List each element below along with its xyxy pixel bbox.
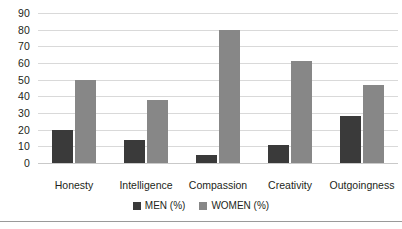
legend-item-women[interactable]: WOMEN (%) — [199, 201, 269, 211]
bar-group — [196, 0, 240, 176]
chart-legend: MEN (%)WOMEN (%) — [0, 198, 402, 214]
y-tick-label: 80 — [18, 25, 30, 35]
x-tick-label: Creativity — [268, 179, 312, 191]
x-tick-label: Honesty — [55, 179, 94, 191]
bar-men — [52, 130, 73, 163]
y-tick-label: 0 — [24, 158, 30, 168]
y-tick-label: 20 — [18, 125, 30, 135]
x-tick-label: Compassion — [189, 179, 247, 191]
legend-label: WOMEN (%) — [211, 201, 269, 211]
bar-women — [363, 85, 384, 163]
y-tick-label: 10 — [18, 141, 30, 151]
y-tick-label: 30 — [18, 108, 30, 118]
bottom-divider — [0, 221, 402, 222]
x-tick-label: Outgoingness — [330, 179, 395, 191]
x-axis-labels: HonestyIntelligenceCompassionCreativityO… — [38, 176, 398, 196]
y-tick-label: 60 — [18, 58, 30, 68]
y-axis: 0102030405060708090 — [0, 0, 36, 176]
x-tick-label: Intelligence — [119, 179, 172, 191]
y-tick-label: 50 — [18, 75, 30, 85]
bar-men — [196, 155, 217, 163]
y-tick-label: 40 — [18, 91, 30, 101]
plot-wrapper: 0102030405060708090 — [0, 0, 402, 176]
y-tick-label: 90 — [18, 8, 30, 18]
legend-item-men[interactable]: MEN (%) — [133, 201, 186, 211]
bar-group — [268, 0, 312, 176]
plot-area — [38, 0, 398, 176]
y-tick-label: 70 — [18, 41, 30, 51]
bar-group — [124, 0, 168, 176]
bar-group — [340, 0, 384, 176]
legend-swatch-icon — [133, 202, 141, 210]
bar-chart: 0102030405060708090 HonestyIntelligenceC… — [0, 0, 402, 229]
bars-layer — [38, 0, 398, 176]
bar-men — [268, 145, 289, 163]
bar-men — [124, 140, 145, 163]
bar-women — [291, 61, 312, 163]
bar-group — [52, 0, 96, 176]
legend-swatch-icon — [199, 202, 207, 210]
bar-women — [75, 80, 96, 163]
legend-label: MEN (%) — [145, 201, 186, 211]
bar-men — [340, 116, 361, 163]
bar-women — [147, 100, 168, 163]
bar-women — [219, 30, 240, 163]
